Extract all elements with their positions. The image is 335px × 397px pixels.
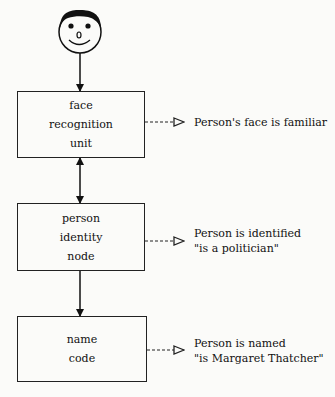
output-line: Person's face is familiar <box>194 115 327 130</box>
node-line: person <box>62 209 100 228</box>
node-line: face <box>69 96 92 115</box>
smiley-face-icon <box>59 10 101 53</box>
output-label-named: Person is named "is Margaret Thatcher" <box>194 336 324 366</box>
node-line: identity <box>60 228 103 247</box>
output-line: "is a politician" <box>194 241 301 256</box>
output-label-familiar: Person's face is familiar <box>194 115 327 130</box>
output-line: "is Margaret Thatcher" <box>194 351 324 366</box>
node-line: node <box>67 247 94 266</box>
output-line: Person is identified <box>194 226 301 241</box>
output-label-identified: Person is identified "is a politician" <box>194 226 301 256</box>
node-line: code <box>69 349 95 368</box>
node-line: recognition <box>49 115 113 134</box>
node-line: unit <box>70 134 92 153</box>
name-code-box: name code <box>17 316 147 382</box>
person-identity-node-box: person identity node <box>17 203 145 271</box>
face-recognition-unit-box: face recognition unit <box>17 91 145 158</box>
node-line: name <box>67 330 98 349</box>
output-line: Person is named <box>194 336 324 351</box>
